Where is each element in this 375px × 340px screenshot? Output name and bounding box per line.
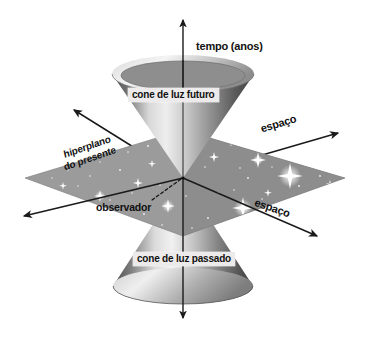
observer-label: observador bbox=[96, 201, 151, 213]
past-cone-label: cone de luz passado bbox=[133, 252, 235, 266]
diagram-canvas bbox=[0, 0, 375, 340]
origin-point bbox=[181, 176, 184, 179]
future-cone-label: cone de luz futuro bbox=[128, 88, 219, 102]
lightcone-diagram: tempo (anos) cone de luz futuro cone de … bbox=[0, 0, 375, 340]
time-axis-label: tempo (anos) bbox=[196, 40, 263, 52]
